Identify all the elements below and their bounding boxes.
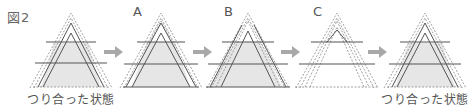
pyramid-balanced-end <box>384 13 466 88</box>
caption-balanced-end: つり合った状態 <box>381 90 469 107</box>
arrow-a-to-b <box>193 46 212 58</box>
arrow-start-to-a <box>104 46 123 58</box>
pyramid-step-a <box>120 13 202 88</box>
pyramid-step-b <box>206 13 290 88</box>
arrow-b-to-c <box>281 46 300 58</box>
pyramid-balanced-start <box>30 13 112 88</box>
arrow-c-to-end <box>368 46 387 58</box>
caption-balanced-start: つり合った状態 <box>27 90 115 107</box>
pyramid-step-c <box>295 13 379 88</box>
